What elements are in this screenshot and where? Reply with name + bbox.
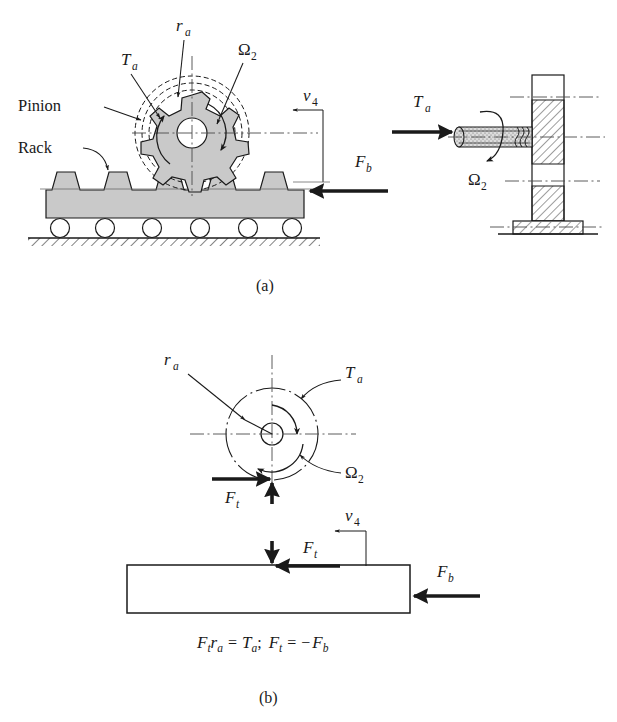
eq-semicolon: ; <box>257 634 261 651</box>
shaft-torque-label: T <box>413 92 424 111</box>
bracket-hatch-lower <box>532 186 564 221</box>
roller-group <box>51 219 302 238</box>
fbd-rack-force-t-label-sub: t <box>314 548 318 560</box>
technical-figure: Pinion Rack T a r a Ω 2 v 4 F <box>0 0 617 722</box>
roller <box>239 219 258 238</box>
bracket-base-hatch <box>513 222 583 233</box>
fbd-radius-label-sub: a <box>173 360 179 372</box>
roller <box>191 219 210 238</box>
shaft-omega-label: Ω <box>468 170 481 189</box>
torque-label-sub: a <box>132 60 138 72</box>
fbd-omega-label: Ω <box>345 463 358 482</box>
fbd-rack-force-t-label: F <box>302 538 314 557</box>
bracket-hatch-upper <box>532 100 564 164</box>
fbd-rack-rect <box>127 565 410 613</box>
equation-group: Ftra=Ta;Ft=−Fb <box>196 633 329 654</box>
rack-leader <box>83 148 108 170</box>
eq-ft2-f: F <box>268 633 280 652</box>
fbd-torque-label: T <box>345 363 356 382</box>
radius-label: r <box>176 16 183 35</box>
pinion-assembly <box>132 56 318 196</box>
shaft-torque-label-sub: a <box>425 102 431 114</box>
fbd-torque-leader <box>301 380 341 399</box>
roller <box>283 219 302 238</box>
omega-label-sub: 2 <box>251 50 257 62</box>
force-b-label-sub: b <box>366 162 372 174</box>
fbd-torque-label-sub: a <box>357 373 363 385</box>
caption-b: (b) <box>259 689 278 707</box>
omega-label: Ω <box>238 40 251 59</box>
velocity-label: v <box>303 86 311 105</box>
fbd-rack: F t v 4 F b <box>127 506 480 613</box>
shaft-omega-label-sub: 2 <box>481 180 487 192</box>
eq-minus: − <box>301 634 310 651</box>
rack-label: Rack <box>18 138 53 157</box>
eq-ra-sub: a <box>217 642 223 654</box>
fbd-omega-label-sub: 2 <box>358 473 364 485</box>
fbd-force-b-label-sub: b <box>448 572 454 584</box>
roller <box>96 219 115 238</box>
fbd-radius-label: r <box>164 350 171 369</box>
fbd-velocity-label-sub: 4 <box>354 516 360 528</box>
velocity-label-sub: 4 <box>312 96 318 108</box>
rack-body <box>46 172 304 218</box>
fbd-omega-leader <box>300 455 341 473</box>
fbd-omega-arc <box>258 444 303 472</box>
torque-label: T <box>121 50 132 69</box>
ground-hatch <box>28 238 320 246</box>
force-b-label: F <box>354 152 366 171</box>
eq-equals-2: = <box>287 634 296 651</box>
panel-b: r a T a Ω 2 F t <box>127 350 480 707</box>
pinion-label: Pinion <box>18 96 61 115</box>
fbd-force-t-label: F <box>224 488 236 507</box>
shaft-bracket-assembly: T a Ω 2 <box>392 75 605 234</box>
figure-root: Pinion Rack T a r a Ω 2 v 4 F <box>0 0 617 722</box>
eq-ft-f: F <box>196 633 208 652</box>
eq-fb-f: F <box>311 633 323 652</box>
fbd-force-t-label-sub: t <box>236 498 240 510</box>
panel-a: Pinion Rack T a r a Ω 2 v 4 F <box>18 16 605 295</box>
fbd-radius-leader <box>188 374 245 420</box>
equation-line: Ftra=Ta;Ft=−Fb <box>196 633 329 654</box>
radius-leader <box>178 40 184 97</box>
torque-leader <box>131 74 160 118</box>
radius-label-sub: a <box>185 26 191 38</box>
rack-assembly <box>28 172 320 246</box>
roller <box>143 219 162 238</box>
fbd-velocity-label: v <box>345 506 353 525</box>
roller <box>51 219 70 238</box>
caption-a: (a) <box>256 277 274 295</box>
fbd-pinion: r a T a Ω 2 F t <box>164 350 364 510</box>
fbd-force-b-label: F <box>436 562 448 581</box>
eq-fb-sub: b <box>323 642 329 654</box>
eq-ft2-sub: t <box>279 642 283 654</box>
pinion-leader <box>104 107 141 120</box>
eq-equals-1: = <box>228 634 237 651</box>
